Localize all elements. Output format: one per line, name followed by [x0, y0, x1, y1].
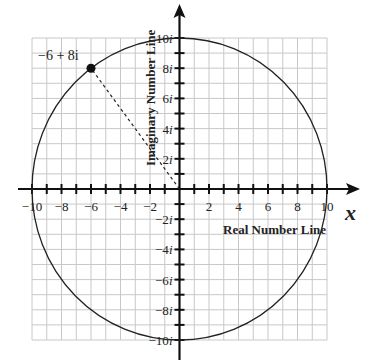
x-tick-label: −6 — [84, 199, 98, 214]
complex-plane-diagram: −10−8−6−4−224681010i8i6i4i2i−2i−4i−6i−8i… — [0, 0, 366, 364]
x-tick-label: −4 — [114, 199, 128, 214]
point-label: −6 + 8i — [38, 48, 79, 63]
x-tick-label: −8 — [55, 199, 69, 214]
y-tick-label: 10i — [156, 31, 173, 46]
x-variable-label: x — [344, 200, 356, 225]
point-marker — [87, 64, 96, 73]
x-tick-label: 6 — [265, 199, 272, 214]
y-tick-label: −8i — [155, 303, 173, 318]
x-axis-title: Real Number Line — [223, 222, 326, 237]
y-tick-label: 2i — [162, 152, 173, 167]
y-tick-label: −10i — [149, 333, 173, 348]
y-tick-label: −4i — [155, 242, 173, 257]
x-tick-label: 4 — [235, 199, 242, 214]
y-tick-label: 6i — [162, 91, 173, 106]
x-tick-label: 2 — [206, 199, 213, 214]
y-tick-label: 4i — [162, 122, 173, 137]
x-tick-label: −10 — [22, 199, 42, 214]
y-tick-label: −6i — [155, 273, 173, 288]
y-tick-label: 8i — [162, 61, 173, 76]
x-tick-label: 8 — [294, 199, 301, 214]
y-axis-title: Imaginary Number Line — [143, 30, 158, 166]
y-tick-label: −2i — [155, 212, 173, 227]
x-tick-label: 10 — [321, 199, 334, 214]
